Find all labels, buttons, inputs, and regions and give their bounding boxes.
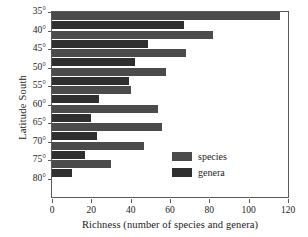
x-axis-tick: [131, 199, 132, 203]
y-axis-tick-label: 75°: [16, 155, 46, 164]
bar-species: [52, 31, 213, 39]
bar-genera: [52, 151, 85, 159]
y-axis-tick: [48, 105, 52, 106]
y-axis-tick-label: 35°: [16, 7, 46, 16]
legend: species genera: [167, 146, 233, 183]
bar-species: [52, 68, 166, 76]
x-axis-tick-label: 0: [32, 205, 72, 215]
y-axis-tick-label: 50°: [16, 63, 46, 72]
y-axis-tick-label: 55°: [16, 81, 46, 90]
bar-group: [52, 123, 288, 142]
y-axis-tick-label: 70°: [16, 137, 46, 146]
x-axis-tick-label: 20: [71, 205, 111, 215]
bar-genera: [52, 114, 91, 122]
y-axis-tick: [48, 160, 52, 161]
x-axis-tick-label: 120: [268, 205, 308, 215]
legend-item-genera: genera: [172, 166, 227, 179]
legend-label-species: species: [198, 152, 227, 162]
y-axis-tick: [48, 86, 52, 87]
x-axis-tick-label: 60: [150, 205, 190, 215]
bar-species: [52, 160, 111, 168]
y-axis-tick-label: 65°: [16, 118, 46, 127]
x-axis-tick-label: 80: [189, 205, 229, 215]
bar-genera: [52, 77, 129, 85]
bar-group: [52, 49, 288, 68]
y-axis-tick: [48, 68, 52, 69]
x-axis-tick: [249, 199, 250, 203]
y-axis-tick-label: 80°: [16, 174, 46, 183]
bar-group: [52, 86, 288, 105]
bar-genera: [52, 58, 135, 66]
x-axis-tick: [288, 199, 289, 203]
x-axis-title: Richness (number of species and genera): [51, 219, 289, 230]
bar-genera: [52, 40, 148, 48]
x-axis-tick: [170, 199, 171, 203]
y-axis-tick-label: 45°: [16, 44, 46, 53]
x-axis-tick: [91, 199, 92, 203]
y-axis-tick: [48, 12, 52, 13]
bar-species: [52, 105, 158, 113]
y-axis-tick: [48, 31, 52, 32]
y-axis-tick: [48, 179, 52, 180]
bar-species: [52, 12, 280, 20]
bar-group: [52, 68, 288, 87]
bar-genera: [52, 21, 184, 29]
chart-figure: Latitude South 35°40°45°50°55°60°65°70°7…: [0, 0, 308, 237]
legend-item-species: species: [172, 150, 227, 163]
legend-label-genera: genera: [198, 168, 225, 178]
y-axis-tick: [48, 142, 52, 143]
bar-genera: [52, 132, 97, 140]
bar-genera: [52, 169, 72, 177]
legend-swatch-species-icon: [172, 152, 192, 161]
x-axis-tick-label: 100: [229, 205, 269, 215]
bar-species: [52, 142, 144, 150]
bar-species: [52, 49, 186, 57]
bar-species: [52, 86, 131, 94]
x-axis-tick-label: 40: [111, 205, 151, 215]
x-axis-tick: [209, 199, 210, 203]
bar-group: [52, 12, 288, 31]
bar-genera: [52, 95, 99, 103]
y-axis-tick: [48, 49, 52, 50]
bar-group: [52, 31, 288, 50]
y-axis-tick: [48, 123, 52, 124]
bar-group: [52, 105, 288, 124]
y-axis-tick-label: 40°: [16, 26, 46, 35]
legend-swatch-genera-icon: [172, 168, 192, 177]
bar-species: [52, 123, 162, 131]
y-axis-tick-label: 60°: [16, 100, 46, 109]
x-axis-tick: [52, 199, 53, 203]
